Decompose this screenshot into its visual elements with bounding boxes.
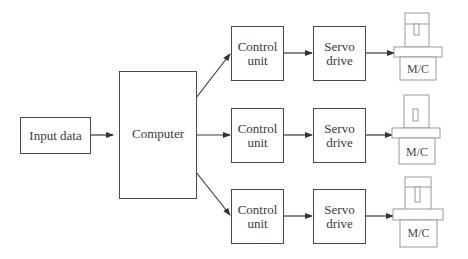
servo-drive-block: Servo drive [313, 108, 366, 163]
servo-drive-label: Servo [324, 122, 354, 136]
servo-drive-block: Servo drive [313, 189, 366, 244]
control-unit-label: unit [247, 54, 267, 68]
control-unit-label: unit [247, 136, 267, 150]
control-unit-label: Control [238, 122, 278, 136]
input-data-label: Input data [29, 129, 81, 143]
machine-label: M/C [400, 62, 436, 77]
servo-drive-label: drive [326, 217, 353, 231]
control-unit-block: Control unit [231, 108, 284, 163]
control-unit-label: Control [238, 203, 278, 217]
control-unit-block: Control unit [231, 26, 284, 81]
servo-drive-label: drive [326, 136, 353, 150]
control-unit-label: Control [238, 40, 278, 54]
control-unit-block: Control unit [231, 189, 284, 244]
input-data-block: Input data [20, 117, 91, 154]
servo-drive-label: drive [326, 54, 353, 68]
control-unit-label: unit [247, 217, 267, 231]
computer-block: Computer [119, 71, 197, 199]
machine-label: M/C [399, 145, 435, 160]
computer-label: Computer [132, 127, 184, 141]
servo-drive-label: Servo [324, 40, 354, 54]
servo-drive-block: Servo drive [313, 26, 366, 81]
servo-drive-label: Servo [324, 203, 354, 217]
machine-label: M/C [400, 226, 437, 241]
